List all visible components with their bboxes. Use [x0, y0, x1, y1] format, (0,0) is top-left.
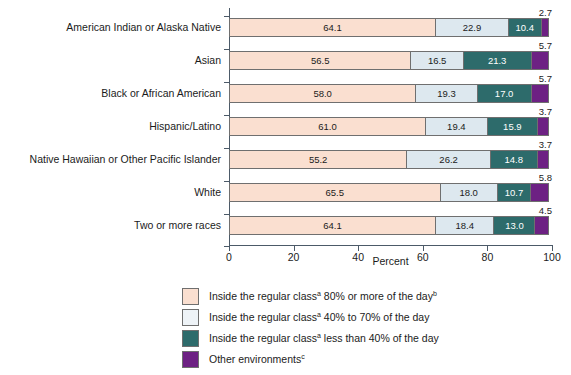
segment-value-label: 61.0: [318, 121, 337, 132]
bar-segment-s4: [537, 117, 549, 136]
y-axis-tick: [224, 115, 230, 116]
bar-segment-s4: [531, 84, 549, 103]
chart-legend: Inside the regular classa 80% or more of…: [182, 286, 512, 370]
stacked-bar: 64.122.910.4: [229, 18, 552, 37]
stacked-bar: 55.226.214.8: [229, 150, 552, 169]
segment-value-label: 19.3: [437, 88, 456, 99]
segment-value-label: 18.4: [455, 220, 474, 231]
y-axis-tick: [224, 16, 230, 17]
legend-item: Inside the regular classa less than 40% …: [182, 328, 512, 348]
bar-segment-s3: 17.0: [477, 84, 532, 103]
bar-segment-s4: [537, 150, 549, 169]
bar-segment-s2: 18.0: [440, 183, 498, 202]
stacked-bar-chart: American Indian or Alaska Native64.122.9…: [0, 0, 571, 278]
chart-row: Hispanic/Latino61.019.415.93.7: [229, 117, 552, 136]
segment-value-label: 56.5: [311, 55, 330, 66]
other-environments-value-label: 3.7: [524, 139, 552, 150]
category-label: Two or more races: [134, 216, 221, 235]
other-environments-value-label: 5.8: [524, 172, 552, 183]
plot-area: American Indian or Alaska Native64.122.9…: [229, 8, 552, 245]
segment-value-label: 21.3: [488, 55, 507, 66]
bar-segment-s4: [530, 183, 549, 202]
legend-item: Inside the regular classa 40% to 70% of …: [182, 307, 512, 327]
legend-item: Other environmentsc: [182, 349, 512, 369]
category-label: White: [194, 183, 221, 202]
segment-value-label: 64.1: [323, 22, 342, 33]
bar-segment-s3: 21.3: [463, 51, 532, 70]
legend-swatch-s4: [182, 351, 199, 368]
segment-value-label: 10.7: [505, 187, 524, 198]
y-axis-tick: [224, 148, 230, 149]
bar-segment-s3: 10.7: [497, 183, 532, 202]
y-axis-tick: [224, 49, 230, 50]
bar-segment-s4: [534, 216, 549, 235]
category-label: Black or African American: [101, 84, 221, 103]
legend-label: Inside the regular classa less than 40% …: [209, 332, 439, 344]
chart-row: White65.518.010.75.8: [229, 183, 552, 202]
x-axis-line: [229, 245, 553, 246]
bar-segment-s1: 65.5: [229, 183, 441, 202]
chart-row: Two or more races64.118.413.04.5: [229, 216, 552, 235]
segment-value-label: 18.0: [459, 187, 478, 198]
chart-row: American Indian or Alaska Native64.122.9…: [229, 18, 552, 37]
bar-segment-s1: 61.0: [229, 117, 426, 136]
other-environments-value-label: 5.7: [524, 40, 552, 51]
legend-item: Inside the regular classa 80% or more of…: [182, 286, 512, 306]
segment-value-label: 16.5: [428, 55, 447, 66]
stacked-bar: 64.118.413.0: [229, 216, 552, 235]
legend-footnote-marker: a: [317, 290, 321, 297]
legend-footnote-marker: a: [317, 332, 321, 339]
bar-segment-s2: 22.9: [435, 18, 509, 37]
bar-segment-s1: 56.5: [229, 51, 411, 70]
chart-row: Native Hawaiian or Other Pacific Islande…: [229, 150, 552, 169]
y-axis-tick: [224, 214, 230, 215]
bar-segment-s2: 16.5: [410, 51, 463, 70]
y-axis-tick: [224, 82, 230, 83]
segment-value-label: 58.0: [313, 88, 332, 99]
segment-value-label: 10.4: [516, 22, 535, 33]
segment-value-label: 55.2: [309, 154, 328, 165]
other-environments-value-label: 2.7: [524, 7, 552, 18]
bar-segment-s4: [541, 18, 550, 37]
y-axis-tick: [224, 181, 230, 182]
bar-segment-s1: 55.2: [229, 150, 407, 169]
bar-segment-s3: 15.9: [487, 117, 538, 136]
x-axis-title: Percent: [229, 255, 552, 267]
segment-value-label: 65.5: [326, 187, 345, 198]
segment-value-label: 15.9: [503, 121, 522, 132]
bar-segment-s2: 19.3: [415, 84, 477, 103]
bar-segment-s4: [531, 51, 549, 70]
chart-row: Asian56.516.521.35.7: [229, 51, 552, 70]
legend-label: Other environmentsc: [209, 353, 305, 365]
other-environments-value-label: 3.7: [524, 106, 552, 117]
segment-value-label: 19.4: [447, 121, 466, 132]
bar-segment-s2: 26.2: [406, 150, 491, 169]
other-environments-value-label: 5.7: [524, 73, 552, 84]
category-label: Asian: [195, 51, 221, 70]
category-label: American Indian or Alaska Native: [66, 18, 221, 37]
segment-value-label: 17.0: [495, 88, 514, 99]
category-label: Native Hawaiian or Other Pacific Islande…: [30, 150, 221, 169]
bar-segment-s1: 64.1: [229, 216, 436, 235]
legend-footnote-marker: a: [317, 311, 321, 318]
segment-value-label: 26.2: [439, 154, 458, 165]
segment-value-label: 22.9: [463, 22, 482, 33]
category-label: Hispanic/Latino: [149, 117, 221, 136]
legend-footnote-marker: b: [433, 290, 437, 297]
bar-segment-s2: 18.4: [435, 216, 494, 235]
legend-label: Inside the regular classa 80% or more of…: [209, 290, 437, 302]
bar-segment-s3: 10.4: [508, 18, 542, 37]
segment-value-label: 13.0: [505, 220, 524, 231]
bar-segment-s1: 64.1: [229, 18, 436, 37]
stacked-bar: 61.019.415.9: [229, 117, 552, 136]
legend-footnote-marker: c: [301, 353, 305, 360]
other-environments-value-label: 4.5: [524, 205, 552, 216]
stacked-bar: 56.516.521.3: [229, 51, 552, 70]
legend-swatch-s3: [182, 330, 199, 347]
bar-segment-s3: 13.0: [493, 216, 535, 235]
bar-segment-s2: 19.4: [425, 117, 488, 136]
bar-segment-s3: 14.8: [490, 150, 538, 169]
legend-swatch-s2: [182, 309, 199, 326]
stacked-bar: 58.019.317.0: [229, 84, 552, 103]
bar-segment-s1: 58.0: [229, 84, 416, 103]
